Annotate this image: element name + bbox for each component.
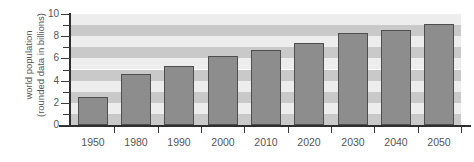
x-axis-tick [461,127,462,133]
x-axis-tick [418,127,419,133]
x-axis-tick-label: 2040 [374,136,418,149]
x-axis-tick-label: 1950 [71,136,115,149]
y-axis-tick-label-text: 2 [38,98,59,108]
y-axis-tick-label-text: 10 [38,9,59,19]
y-axis-tick-minor [63,92,70,93]
bar [251,50,281,125]
y-axis-title: world population (rounded data in billio… [0,0,56,130]
x-axis-line [59,125,471,127]
x-axis-tick [244,127,245,133]
bar [78,97,108,125]
x-axis-tick [374,127,375,133]
y-axis-tick-label-text: 6 [38,53,59,63]
y-axis-tick-major [61,125,70,126]
bar [294,43,324,125]
y-axis-tick-major [61,36,70,37]
y-axis-tick-label: 4 [38,76,59,86]
x-axis-tick [201,127,202,133]
x-axis-tick [114,127,115,133]
y-axis-tick-major [61,14,70,15]
y-axis-tick-major [61,81,70,82]
y-axis-tick-minor [63,25,70,26]
grid-band [71,14,461,25]
x-axis-tick [288,127,289,133]
y-axis-tick-minor [63,47,70,48]
y-axis-tick-label: 0 [38,120,59,130]
y-axis-tick-label: 8 [38,31,59,41]
bar [338,33,368,125]
y-axis-tick-major [61,103,70,104]
bar-chart: world population (rounded data in billio… [0,0,474,162]
x-axis-tick-label: 1980 [114,136,158,149]
y-axis-tick-label-text: 8 [38,31,59,41]
x-axis-tick-label: 2010 [244,136,288,149]
y-axis-tick-major [61,58,70,59]
bar [164,66,194,125]
y-axis-tick-label: 2 [38,98,59,108]
y-axis-title-line-1: world population [23,6,35,124]
bar [208,56,238,125]
bar [381,30,411,125]
bar [121,74,151,125]
x-axis-tick-label: 2050 [417,136,461,149]
x-axis-tick-label: 2020 [287,136,331,149]
y-axis-tick-label: 6 [38,53,59,63]
x-axis-tick-label: 2000 [201,136,245,149]
x-axis-tick [158,127,159,133]
x-axis-tick [331,127,332,133]
y-axis-tick-minor [63,114,70,115]
y-axis-tick-minor [63,70,70,71]
x-axis-tick-label: 2030 [331,136,375,149]
y-axis-tick-label-text: 4 [38,76,59,86]
bar [424,24,454,125]
y-axis-tick-label-text: 0 [38,120,59,130]
x-axis-tick-label: 1990 [157,136,201,149]
y-axis-tick-label: 10 [38,9,59,19]
